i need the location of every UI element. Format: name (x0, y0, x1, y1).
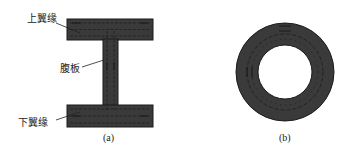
web (103, 39, 118, 106)
caption-b: (b) (279, 132, 291, 143)
caption-a: (a) (103, 132, 114, 143)
hollow-circular-section (236, 23, 334, 121)
label-top-flange: 上翼缘 (27, 10, 57, 25)
leader-web (82, 60, 104, 67)
label-bottom-flange: 下翼缘 (18, 114, 48, 129)
label-web: 腹板 (60, 60, 80, 75)
